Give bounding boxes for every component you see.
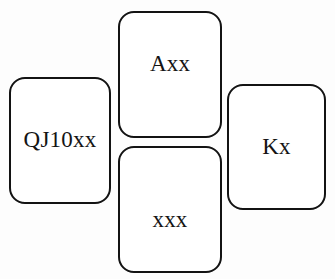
card-west[interactable]: QJ10xx (9, 77, 111, 204)
card-east-holding: Kx (262, 135, 291, 158)
card-north-holding: Axx (150, 52, 190, 75)
card-east[interactable]: Kx (227, 84, 326, 210)
card-north[interactable]: Axx (118, 11, 222, 138)
bridge-hand-diagram: QJ10xx Axx Kx xxx (0, 0, 335, 279)
card-south[interactable]: xxx (118, 146, 222, 273)
card-west-holding: QJ10xx (24, 128, 97, 151)
card-south-holding: xxx (152, 208, 187, 231)
